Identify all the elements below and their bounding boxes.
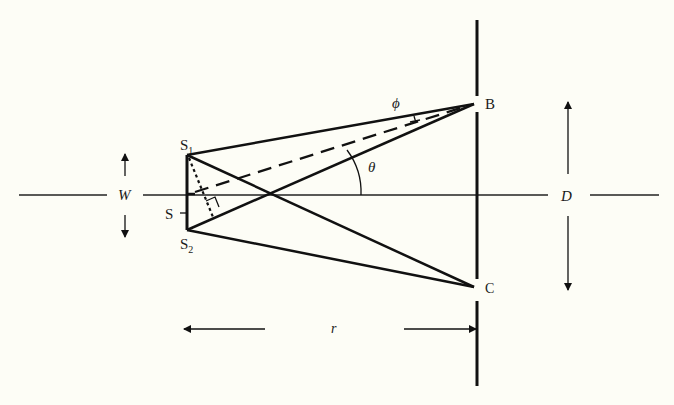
- label-theta: θ: [368, 159, 376, 175]
- label-s: S: [165, 206, 173, 222]
- label-r: r: [331, 321, 337, 336]
- ray-s2-c: [187, 230, 474, 287]
- dashed-central-ray: [195, 105, 470, 192]
- ray-s1-b: [187, 104, 474, 155]
- right-angle-marker: [206, 197, 219, 207]
- label-d: D: [560, 188, 572, 204]
- ray-s1-c: [187, 155, 474, 287]
- label-phi: ϕ: [392, 95, 400, 111]
- label-w: W: [118, 187, 132, 203]
- label-c: C: [485, 281, 494, 296]
- label-s2: S2: [180, 236, 193, 255]
- dotted-perpendicular: [189, 158, 213, 217]
- diagram-canvas: S1 S2 S B C W D r θ ϕ: [0, 0, 674, 405]
- ray-s2-b: [187, 104, 474, 230]
- double-slit-diagram: S1 S2 S B C W D r θ ϕ: [0, 0, 674, 405]
- label-s1: S1: [180, 137, 193, 156]
- label-b: B: [485, 96, 495, 112]
